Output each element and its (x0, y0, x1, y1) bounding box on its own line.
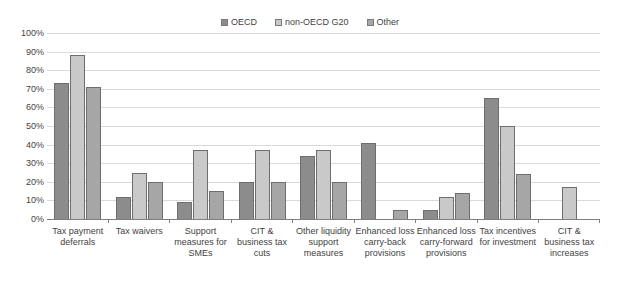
x-axis-category-label: Enhanced loss carry-back provisions (354, 226, 415, 259)
x-axis-category-label: Tax payment deferrals (47, 226, 108, 259)
legend-entry: non-OECD G20 (275, 17, 349, 27)
y-axis-tick-label: 50% (2, 121, 44, 131)
x-axis-category-label: Other liquidity support measures (293, 226, 354, 259)
bar (562, 187, 577, 219)
x-axis-tick (354, 219, 415, 223)
legend-swatch-icon (367, 19, 374, 26)
bar (209, 191, 224, 219)
legend-label: OECD (231, 17, 257, 27)
bar-group (354, 33, 415, 219)
y-axis-tick-label: 40% (2, 140, 44, 150)
bar-group (47, 33, 108, 219)
x-axis-category-label: CIT & business tax increases (539, 226, 600, 259)
bar (361, 143, 376, 219)
bar (177, 202, 192, 219)
bar (193, 150, 208, 219)
bar (255, 150, 270, 219)
bar (300, 156, 315, 219)
legend-label: non-OECD G20 (285, 17, 349, 27)
bar (148, 182, 163, 219)
x-axis-tick (539, 219, 600, 223)
legend-entry: Other (367, 17, 400, 27)
bar (116, 197, 131, 219)
bar-groups (47, 33, 600, 219)
bar-group (539, 33, 600, 219)
bar-group (108, 33, 169, 219)
bar-group (231, 33, 292, 219)
bar (455, 193, 470, 219)
bar-group (477, 33, 538, 219)
y-axis-tick-label: 80% (2, 65, 44, 75)
x-axis-category-label: Support measures for SMEs (170, 226, 231, 259)
legend-label: Other (377, 17, 400, 27)
bar (132, 173, 147, 220)
chart-legend: OECDnon-OECD G20Other (0, 17, 620, 27)
legend-swatch-icon (275, 19, 282, 26)
x-axis-tick (416, 219, 477, 223)
x-axis-tick (293, 219, 354, 223)
y-axis-tick-label: 60% (2, 102, 44, 112)
y-axis-tick-label: 90% (2, 47, 44, 57)
y-axis-tick-label: 30% (2, 158, 44, 168)
bar (332, 182, 347, 219)
bar (271, 182, 286, 219)
bar-group (293, 33, 354, 219)
x-axis-ticks (47, 219, 600, 223)
x-axis-tick (108, 219, 169, 223)
x-axis-labels: Tax payment deferralsTax waiversSupport … (47, 226, 600, 259)
bar-group (170, 33, 231, 219)
y-axis-tick-label: 10% (2, 195, 44, 205)
bar (86, 87, 101, 219)
bar (393, 210, 408, 219)
bar (500, 126, 515, 219)
y-axis: 0%10%20%30%40%50%60%70%80%90%100% (0, 33, 44, 219)
legend-entry: OECD (221, 17, 257, 27)
bar (239, 182, 254, 219)
x-axis-category-label: Tax waivers (108, 226, 169, 259)
legend-swatch-icon (221, 19, 228, 26)
x-axis-tick (170, 219, 231, 223)
y-axis-tick-label: 70% (2, 84, 44, 94)
y-axis-tick-label: 0% (2, 214, 44, 224)
x-axis-category-label: Tax incentives for investment (477, 226, 538, 259)
bar (70, 55, 85, 219)
x-axis-tick (47, 219, 108, 223)
bar (439, 197, 454, 219)
bar (54, 83, 69, 219)
y-axis-tick-label: 100% (2, 28, 44, 38)
bar-chart: OECDnon-OECD G20Other 0%10%20%30%40%50%6… (0, 0, 620, 287)
x-axis-tick (477, 219, 538, 223)
y-axis-tick-label: 20% (2, 177, 44, 187)
bar (423, 210, 438, 219)
bar-group (416, 33, 477, 219)
bar (516, 174, 531, 219)
bar (316, 150, 331, 219)
x-axis-category-label: CIT & business tax cuts (231, 226, 292, 259)
x-axis-tick (231, 219, 292, 223)
bar (484, 98, 499, 219)
x-axis-category-label: Enhanced loss carry-forward provisions (416, 226, 477, 259)
